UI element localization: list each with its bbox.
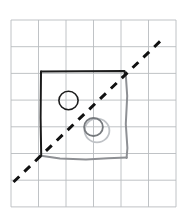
gray-square-bottom-edge bbox=[41, 156, 127, 160]
gray-square-right-edge bbox=[126, 72, 128, 158]
black-square-left-edge bbox=[41, 72, 42, 156]
graph-paper-grid bbox=[11, 20, 176, 207]
drawn-shapes-layer bbox=[14, 40, 162, 182]
figure-canvas bbox=[0, 0, 184, 223]
dashed-diagonal-line bbox=[14, 40, 162, 182]
figure-svg bbox=[0, 0, 184, 223]
gray-circle-outer bbox=[85, 119, 110, 143]
